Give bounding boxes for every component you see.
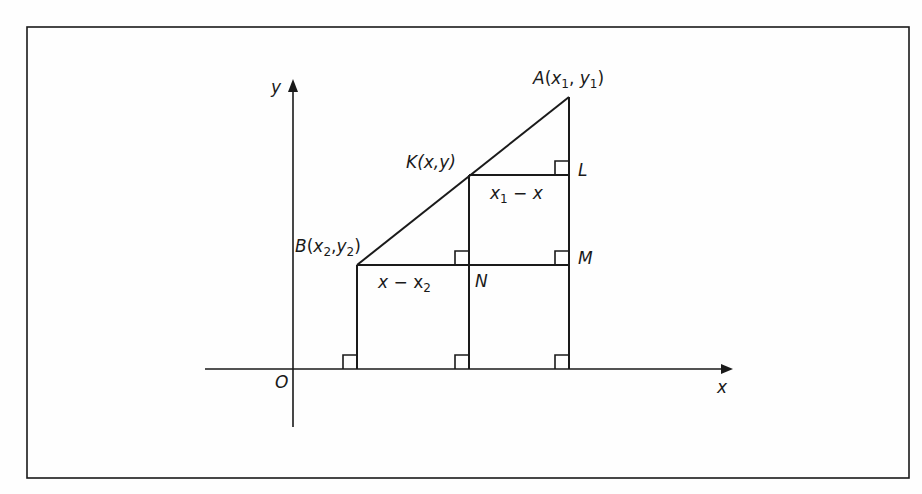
line-BA xyxy=(357,97,569,265)
segment-KL-label: x1 − x xyxy=(489,183,544,206)
y-axis-label: y xyxy=(270,77,282,97)
x-axis-label: x xyxy=(716,377,728,397)
diagram-canvas: y x O A(x1, y1) K(x,y) B(x2,y2) L M N x1… xyxy=(0,0,922,494)
right-angle-foot-K-icon xyxy=(455,355,469,369)
point-A-label: A(x1, y1) xyxy=(532,68,604,91)
point-N-label: N xyxy=(475,271,488,291)
origin-label: O xyxy=(275,372,288,392)
segment-BN-label: x − x2 xyxy=(377,272,431,295)
point-B-label: B(x2,y2) xyxy=(295,236,361,259)
right-angle-N-icon xyxy=(455,251,469,265)
y-axis-arrow-icon xyxy=(288,79,298,92)
point-K-label: K(x,y) xyxy=(406,152,456,172)
point-M-label: M xyxy=(578,248,593,268)
right-angle-M-icon xyxy=(555,251,569,265)
right-angle-foot-A-icon xyxy=(555,355,569,369)
point-L-label: L xyxy=(578,160,587,180)
right-angle-foot-B-icon xyxy=(343,355,357,369)
x-axis-arrow-icon xyxy=(721,364,733,374)
right-angle-L-icon xyxy=(555,161,569,175)
